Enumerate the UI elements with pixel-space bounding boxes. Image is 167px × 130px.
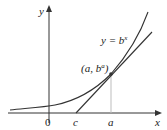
origin-label: 0 bbox=[45, 116, 51, 128]
x-axis-label: x bbox=[154, 116, 160, 128]
y-axis-arrow-icon bbox=[46, 5, 52, 12]
diagram-root: y x 0 c a y = bx (a, ba) bbox=[0, 0, 167, 130]
a-label: a bbox=[108, 116, 114, 128]
exponential-curve bbox=[10, 12, 148, 110]
tangent-point bbox=[109, 72, 113, 76]
y-axis-label: y bbox=[38, 5, 44, 17]
c-label: c bbox=[73, 116, 78, 128]
curve-label: y = bx bbox=[100, 34, 128, 46]
point-label: (a, ba) bbox=[81, 62, 109, 75]
exponential-tangent-diagram: y x 0 c a y = bx (a, ba) bbox=[0, 0, 167, 130]
